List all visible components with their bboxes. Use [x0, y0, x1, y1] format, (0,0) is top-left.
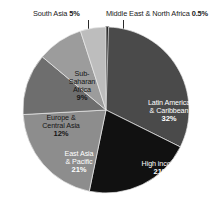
slice-label-sub-saharan-africa: Sub- Saharan Africa 9%	[63, 70, 101, 103]
slice-label-south-asia-percent: 5%	[69, 9, 79, 18]
slice-label-south-asia: South Asia 5%	[33, 10, 80, 17]
slice-label-high-income: High income 21%	[126, 160, 196, 177]
slice-label-latin-america: Latin America & Caribbean 32%	[132, 99, 206, 124]
slice-label-east-asia-percent: 21%	[50, 166, 108, 175]
pie-chart-figure: South Asia 5% Middle East & North Africa…	[0, 0, 221, 197]
slice-label-high-income-percent: 21%	[126, 168, 196, 177]
slice-label-latin-america-percent: 32%	[132, 115, 206, 124]
slice-label-south-asia-name: South Asia	[33, 9, 67, 18]
slice-label-mena: Middle East & North Africa 0.5%	[106, 10, 208, 17]
slice-label-europe-central-asia: Europe & Central Asia 12%	[28, 114, 94, 139]
slice-label-mena-percent: 0.5%	[192, 9, 208, 18]
slice-label-ssa-percent: 9%	[63, 94, 101, 103]
slice-label-mena-name: Middle East & North Africa	[106, 9, 190, 18]
pie-graphic: Latin America & Caribbean 32% High incom…	[22, 26, 190, 194]
slice-label-europe-percent: 12%	[28, 130, 94, 139]
slice-label-east-asia: East Asia & Pacific 21%	[50, 150, 108, 175]
